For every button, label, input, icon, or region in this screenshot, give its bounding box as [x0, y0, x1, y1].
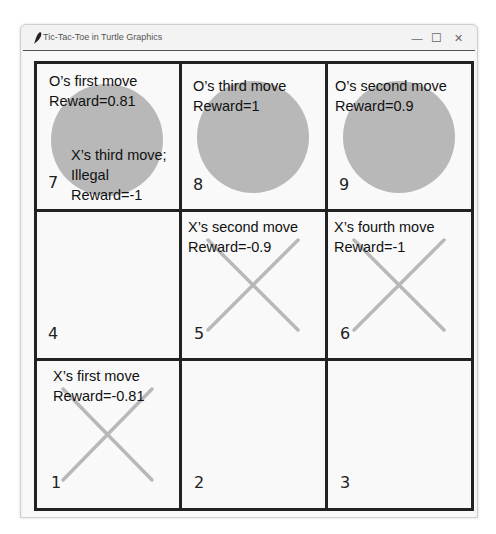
- window-title: Tic-Tac-Toe in Turtle Graphics: [43, 32, 162, 42]
- cell-6-number: 6: [340, 324, 350, 343]
- cell-9-annotation: O’s second move Reward=0.9: [335, 76, 447, 116]
- maximize-button[interactable]: ☐: [426, 29, 446, 47]
- cell-6-annotation: X’s fourth move Reward=-1: [334, 217, 434, 257]
- cell-7-annotation: O’s first move Reward=0.81: [49, 71, 137, 111]
- cell-1-number: 1: [51, 473, 61, 492]
- app-window: Tic-Tac-Toe in Turtle Graphics — ☐ ✕: [20, 24, 478, 518]
- minimize-button[interactable]: —: [407, 29, 427, 47]
- cell-8-number: 8: [193, 175, 203, 194]
- cell-3-number: 3: [340, 473, 350, 492]
- cell-8-annotation: O’s third move Reward=1: [193, 76, 286, 116]
- title-bar[interactable]: Tic-Tac-Toe in Turtle Graphics — ☐ ✕: [21, 25, 477, 51]
- turtle-canvas[interactable]: O’s first move Reward=0.81 X’s third mov…: [23, 50, 475, 517]
- board-graphics: [23, 51, 475, 517]
- cell-9-number: 9: [339, 175, 349, 194]
- cell-7-extra-annotation: X’s third move; Illegal Reward=-1: [71, 145, 167, 205]
- cell-2-number: 2: [194, 473, 204, 492]
- cell-5-annotation: X’s second move Reward=-0.9: [188, 217, 298, 257]
- close-button[interactable]: ✕: [448, 29, 468, 47]
- cell-1-annotation: X’s first move Reward=-0.81: [53, 366, 144, 406]
- cell-7-number: 7: [48, 173, 58, 192]
- cell-4-number: 4: [48, 324, 58, 343]
- cell-5-number: 5: [194, 324, 204, 343]
